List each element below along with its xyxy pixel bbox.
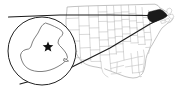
state-boundaries-great-lakes (122, 5, 152, 53)
upper-leader-line (9, 15, 164, 17)
map-canvas (0, 0, 185, 92)
locator-map-figure: United States locator map with New York … (0, 0, 185, 92)
inset-group (8, 17, 76, 85)
state-boundaries-southeast (125, 50, 145, 77)
